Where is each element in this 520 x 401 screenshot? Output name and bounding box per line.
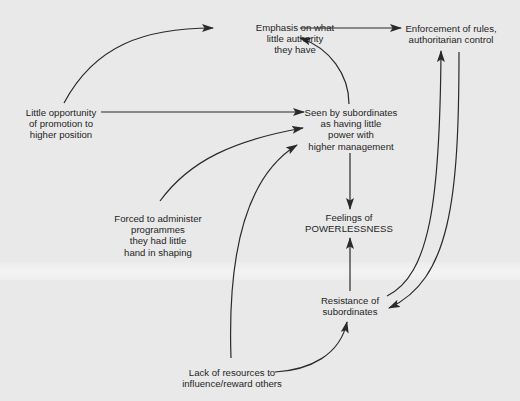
node-enforcement: Enforcement of rules, authoritarian cont… bbox=[405, 23, 496, 45]
node-forced-line-4: hand in shaping bbox=[114, 247, 201, 258]
node-enforcement-line-1: Enforcement of rules, bbox=[405, 23, 496, 34]
node-resistance-line-2: subordinates bbox=[321, 306, 379, 317]
node-emphasis: Emphasis on what little authority they h… bbox=[256, 22, 334, 56]
node-little-opportunity-line-1: Little opportunity bbox=[26, 107, 96, 118]
edge-lack-to-seen bbox=[231, 145, 297, 358]
node-seen-by-subordinates: Seen by subordinates as having little po… bbox=[305, 107, 398, 152]
node-feelings-of-powerlessness: Feelings of POWERLESSNESS bbox=[305, 212, 393, 234]
node-forced-line-3: they had little bbox=[114, 235, 201, 246]
node-little-opportunity-line-3: higher position bbox=[26, 129, 96, 140]
node-forced-to-administer: Forced to administer programmes they had… bbox=[114, 213, 201, 258]
edge-lack-to-resistance bbox=[275, 322, 347, 372]
node-little-opportunity-line-2: of promotion to bbox=[26, 118, 96, 129]
node-forced-line-2: programmes bbox=[114, 224, 201, 235]
node-lack-of-resources: Lack of resources to influence/reward ot… bbox=[182, 367, 282, 389]
node-lack-line-2: influence/reward others bbox=[182, 378, 282, 389]
node-emphasis-line-1: Emphasis on what bbox=[256, 22, 334, 33]
node-feelings-line-1: Feelings of bbox=[305, 212, 393, 223]
node-seen-line-2: as having little bbox=[305, 118, 398, 129]
edge-forced-to-seen bbox=[160, 128, 303, 201]
node-enforcement-line-2: authoritarian control bbox=[405, 34, 496, 45]
node-little-opportunity: Little opportunity of promotion to highe… bbox=[26, 107, 96, 141]
node-feelings-line-2: POWERLESSNESS bbox=[305, 223, 393, 234]
node-seen-line-3: power with bbox=[305, 129, 398, 140]
node-forced-line-1: Forced to administer bbox=[114, 213, 201, 224]
node-emphasis-line-3: they have bbox=[256, 44, 334, 55]
node-resistance-line-1: Resistance of bbox=[321, 295, 379, 306]
edge-little-opportunity-to-emphasis bbox=[64, 28, 213, 103]
node-seen-line-4: higher management bbox=[305, 141, 398, 152]
node-resistance-of-subordinates: Resistance of subordinates bbox=[321, 295, 379, 317]
edge-resistance-to-enforcement bbox=[387, 51, 441, 296]
node-emphasis-line-2: little authority bbox=[256, 33, 334, 44]
edge-enforcement-to-resistance bbox=[389, 52, 459, 308]
node-seen-line-1: Seen by subordinates bbox=[305, 107, 398, 118]
node-lack-line-1: Lack of resources to bbox=[182, 367, 282, 378]
causal-diagram bbox=[0, 0, 520, 401]
